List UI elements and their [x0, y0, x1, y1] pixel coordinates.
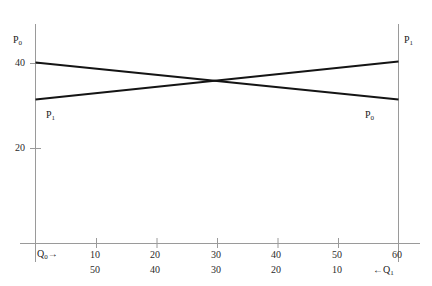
x-tick-label-30: 30 [211, 250, 221, 260]
x-tick2-label-30: 30 [211, 265, 221, 275]
x-axis-end-label: ←Q1 [373, 265, 394, 275]
x-tick2-label-20: 20 [271, 265, 281, 275]
x-tick2-label-10: 10 [332, 265, 342, 275]
y-tick-label-40: 40 [15, 58, 25, 68]
curve-label-p1: P1 [46, 110, 55, 120]
x-tick-label-40: 40 [271, 250, 281, 260]
curve-label-p0: P0 [365, 110, 374, 120]
x-tick-label-10: 10 [90, 250, 100, 260]
x-axis-origin-label: Q0→ [37, 249, 58, 259]
economics-price-quantity-chart: P0 40 20 P1 P1 P0 Q0→ ←Q1 10 20 30 40 50… [0, 0, 432, 286]
x-tick2-label-50: 50 [90, 265, 100, 275]
x-tick-label-50: 50 [332, 250, 342, 260]
x-tick-label-60: 60 [392, 250, 402, 260]
chart-canvas [0, 0, 432, 286]
x-tick-label-20: 20 [150, 250, 160, 260]
x-tick2-label-40: 40 [150, 265, 160, 275]
y-tick-label-20: 20 [15, 143, 25, 153]
y-axis-right-label: P1 [404, 35, 413, 45]
y-axis-left-label: P0 [13, 35, 22, 45]
